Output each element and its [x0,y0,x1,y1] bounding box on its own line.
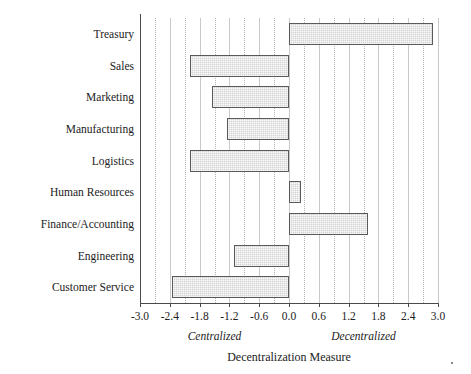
gridline [289,18,290,303]
decentralization-bar-chart: TreasurySalesMarketingManufacturingLogis… [0,0,471,374]
bar-manufacturing [227,118,289,140]
bar-treasury [289,23,433,45]
bar-logistics [190,150,289,172]
y-axis-label-human-resources: Human Resources [0,186,134,198]
gridline [423,18,425,303]
gridline [185,18,187,303]
bar-human-resources [289,181,301,203]
y-axis-label-sales: Sales [0,60,134,72]
x-tick-mark [319,303,320,307]
gridline [170,18,171,303]
y-axis-label-logistics: Logistics [0,155,134,167]
bar-finance-accounting [289,213,368,235]
gridline [378,18,379,303]
bar-engineering [234,245,289,267]
x-tick-mark [259,303,260,307]
gridline [408,18,409,303]
annotation-centralized: Centralized [155,330,275,342]
gridline [393,18,395,303]
x-tick-mark [349,303,350,307]
gridline [155,18,157,303]
x-tick-mark [408,303,409,307]
y-axis-label-treasury: Treasury [0,28,134,40]
y-axis-label-manufacturing: Manufacturing [0,123,134,135]
bar-sales [190,55,289,77]
y-axis-labels: TreasurySalesMarketingManufacturingLogis… [0,18,134,303]
gridline [349,18,350,303]
gridline [364,18,366,303]
gridline [304,18,306,303]
bar-customer-service [172,276,289,298]
x-tick-mark [289,303,290,307]
corner-artifact-dot [451,362,453,364]
x-axis-title: Decentralization Measure [140,350,438,365]
x-tick-mark [140,303,141,307]
gridline [319,18,320,303]
y-axis-label-finance-accounting: Finance/Accounting [0,218,134,230]
x-tick-mark [378,303,379,307]
gridline [438,18,439,303]
x-tick-label: 3.0 [418,310,458,322]
annotation-decentralized: Decentralized [304,330,424,342]
bar-marketing [212,86,289,108]
x-tick-mark [438,303,439,307]
gridline [334,18,336,303]
y-axis-label-marketing: Marketing [0,91,134,103]
y-axis-label-customer-service: Customer Service [0,281,134,293]
x-tick-mark [170,303,171,307]
plot-area [140,18,438,303]
y-axis-line [140,14,141,306]
x-tick-mark [200,303,201,307]
x-tick-mark [229,303,230,307]
y-axis-label-engineering: Engineering [0,250,134,262]
